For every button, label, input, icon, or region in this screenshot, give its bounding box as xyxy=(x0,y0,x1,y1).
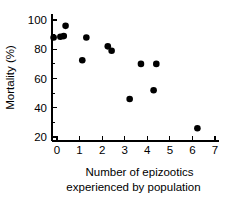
x-tick-label: 6 xyxy=(189,144,195,156)
data-points-group xyxy=(50,23,200,132)
scatter-plot-figure: 20406080100 01234567 Mortality (%) Numbe… xyxy=(0,0,231,203)
x-tick-label: 7 xyxy=(212,144,218,156)
data-point xyxy=(108,47,115,54)
data-point xyxy=(194,125,201,132)
data-point xyxy=(62,23,69,30)
x-tick-label: 0 xyxy=(54,144,60,156)
x-axis-tick-labels: 01234567 xyxy=(54,144,218,156)
y-tick-label: 80 xyxy=(34,43,47,55)
x-tick-label: 5 xyxy=(167,144,173,156)
x-tick-label: 1 xyxy=(76,144,82,156)
y-tick-label: 100 xyxy=(28,14,47,26)
y-tick-label: 60 xyxy=(34,73,47,85)
data-point xyxy=(50,34,57,41)
data-point xyxy=(150,87,157,94)
y-tick-label: 40 xyxy=(34,102,47,114)
y-tick-label: 20 xyxy=(34,131,47,143)
x-tick-label: 2 xyxy=(99,144,105,156)
data-point xyxy=(79,57,86,64)
data-point xyxy=(126,96,133,103)
chart-canvas: 20406080100 01234567 Mortality (%) Numbe… xyxy=(0,0,231,203)
data-point xyxy=(153,61,160,68)
x-axis-ticks xyxy=(57,136,215,141)
axes-group xyxy=(52,14,219,141)
data-point xyxy=(60,33,67,40)
x-axis-title-line-1: Number of epizootics xyxy=(85,166,193,178)
data-point xyxy=(83,34,90,41)
x-tick-label: 3 xyxy=(122,144,128,156)
data-point xyxy=(138,61,145,68)
y-axis-title: Mortality (%) xyxy=(4,45,16,110)
y-axis-tick-labels: 20406080100 xyxy=(28,14,47,143)
x-axis-title-line-2: experienced by population xyxy=(66,181,200,193)
x-tick-label: 4 xyxy=(144,144,151,156)
